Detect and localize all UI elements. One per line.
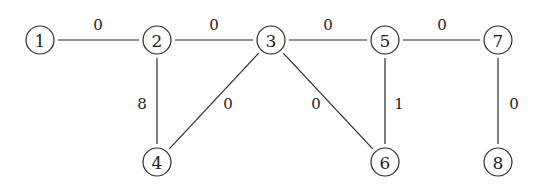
node-label: 8 <box>493 153 504 173</box>
node-label: 4 <box>152 153 163 173</box>
edge-weight-label: 8 <box>137 95 147 113</box>
graph-svg: 000080010 12357468 <box>0 0 537 190</box>
nodes-layer: 12357468 <box>26 26 512 176</box>
edge-weight-label: 0 <box>323 16 333 34</box>
node-2: 2 <box>143 26 171 54</box>
node-7: 7 <box>484 26 512 54</box>
node-label: 5 <box>380 31 391 51</box>
node-label: 1 <box>35 31 46 51</box>
node-label: 6 <box>380 153 391 173</box>
edge-weight-label: 0 <box>223 95 233 113</box>
edge-weight-label: 1 <box>394 95 404 113</box>
node-label: 2 <box>152 31 163 51</box>
graph-diagram: 000080010 12357468 <box>0 0 537 190</box>
node-1: 1 <box>26 26 54 54</box>
edge-weight-label: 0 <box>509 95 519 113</box>
edge-weight-label: 0 <box>437 16 447 34</box>
node-4: 4 <box>143 148 171 176</box>
node-label: 3 <box>266 31 277 51</box>
edge-weight-label: 0 <box>209 16 219 34</box>
node-3: 3 <box>257 26 285 54</box>
edges-layer <box>58 40 498 149</box>
edge-3-4 <box>169 53 258 149</box>
node-label: 7 <box>493 31 504 51</box>
node-6: 6 <box>371 148 399 176</box>
node-8: 8 <box>484 148 512 176</box>
edge-3-6 <box>283 53 372 149</box>
edge-weight-label: 0 <box>93 16 103 34</box>
edge-weight-label: 0 <box>311 95 321 113</box>
node-5: 5 <box>371 26 399 54</box>
